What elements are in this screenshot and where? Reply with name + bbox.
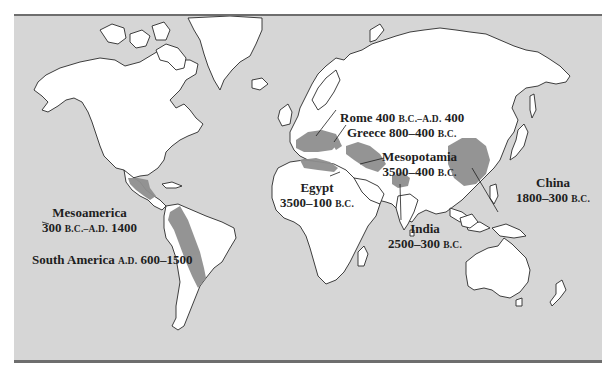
label-mesopotamia: Mesopotamia 3500–400 B.C. [382, 149, 457, 181]
landmass-caribbean [162, 182, 182, 188]
label-mesoamerica-dates: 300 [42, 220, 65, 235]
world-map: Rome 400 B.C.–A.D. 400 Greece 800–400 B.… [14, 16, 602, 361]
label-mesoamerica-era: B.C.–A.D. [65, 224, 108, 234]
landmass-arctic-islands-3 [152, 22, 170, 40]
label-india-name: India [388, 221, 462, 236]
label-china-era: B.C. [571, 194, 590, 204]
landmass-new-zealand [550, 280, 566, 306]
label-mesoamerica-name: Mesoamerica [42, 205, 137, 220]
landmass-arctic-islands-1 [100, 24, 126, 44]
label-rome-name: Rome [340, 110, 373, 125]
label-china: China 1800–300 B.C. [516, 175, 590, 207]
landmass-britain [278, 104, 292, 126]
label-greece-name: Greece [347, 125, 386, 140]
landmass-australia [466, 238, 530, 298]
landmass-madagascar [358, 246, 368, 266]
label-egypt-era: B.C. [335, 199, 354, 209]
label-mesoamerica-dates-end: 1400 [108, 220, 137, 235]
label-greece: Greece 800–400 B.C. [347, 125, 456, 142]
bottom-rule [14, 360, 602, 363]
label-greece-dates: 800–400 [389, 125, 438, 140]
landmass-new-guinea [492, 224, 526, 238]
label-rome-dates: 400 [376, 110, 399, 125]
label-rome-dates-end: 400 [441, 110, 464, 125]
label-egypt-name: Egypt [280, 180, 354, 195]
label-south-america: South America A.D. 600–1500 [32, 252, 192, 269]
label-india-era: B.C. [443, 240, 462, 250]
label-south-america-era: A.D. [118, 256, 137, 266]
label-india-dates: 2500–300 [388, 236, 443, 251]
label-egypt-dates: 3500–100 [280, 195, 335, 210]
label-china-name: China [516, 175, 590, 190]
label-south-america-name: South America [32, 252, 115, 267]
label-egypt: Egypt 3500–100 B.C. [280, 180, 354, 212]
label-mesopotamia-dates: 3500–400 [383, 164, 438, 179]
landmass-novaya-zemlya [370, 24, 384, 42]
label-india: India 2500–300 B.C. [388, 221, 462, 253]
label-mesoamerica: Mesoamerica 300 B.C.–A.D. 1400 [42, 205, 137, 237]
landmass-greenland [188, 16, 262, 90]
label-mesopotamia-name: Mesopotamia [382, 149, 457, 164]
label-mesopotamia-era: B.C. [438, 168, 457, 178]
label-south-america-dates: 600–1500 [137, 252, 192, 267]
landmass-tasmania [516, 298, 522, 306]
label-greece-era: B.C. [438, 129, 457, 139]
landmass-iceland [252, 78, 268, 90]
label-china-dates: 1800–300 [516, 190, 571, 205]
label-rome-era: B.C.–A.D. [399, 114, 442, 124]
landmass-arctic-islands-2 [130, 30, 150, 48]
landmass-sakhalin [530, 94, 536, 118]
